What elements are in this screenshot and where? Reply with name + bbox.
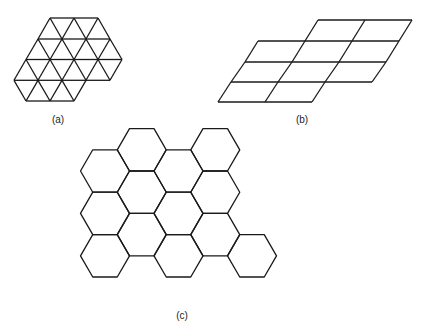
- parallelogram-tiling: [218, 20, 412, 102]
- panel-c-label: (c): [176, 310, 188, 321]
- tiling-diagram: [0, 0, 426, 336]
- panel-a-label: (a): [52, 114, 64, 125]
- triangle-tiling: [14, 18, 122, 101]
- panel-b-label: (b): [296, 114, 308, 125]
- hexagon-tiling: [81, 129, 277, 277]
